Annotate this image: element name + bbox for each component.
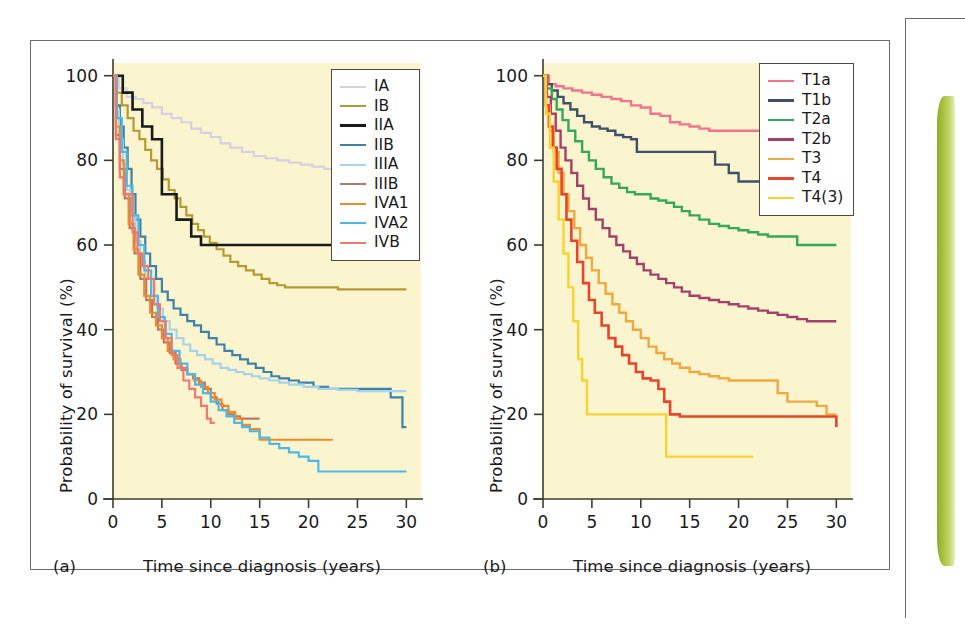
y-tick-label: 60: [506, 235, 528, 255]
legend-swatch-icon: [768, 138, 794, 141]
y-tick-label: 0: [517, 489, 528, 509]
x-tick-label: 30: [826, 512, 848, 532]
x-axis-label-a: Time since diagnosis (years): [143, 557, 381, 576]
legend-swatch-icon: [340, 144, 366, 146]
legend-swatch-icon: [340, 203, 366, 205]
x-tick-label: 5: [586, 512, 597, 532]
y-tick-label: 20: [506, 404, 528, 424]
legend-item-iva1: IVA1: [340, 194, 409, 214]
legend-label: IVB: [374, 235, 400, 251]
legend-item-t2b: T2b: [768, 130, 843, 150]
x-tick-label: 15: [679, 512, 701, 532]
legend-swatch-icon: [340, 222, 366, 224]
x-tick-label: 15: [249, 512, 271, 532]
panel-a: 020406080100051015202530 Probability of …: [31, 41, 461, 571]
legend-item-ivb: IVB: [340, 233, 409, 253]
legend-swatch-icon: [768, 177, 794, 180]
legend-label: IIA: [374, 118, 394, 134]
legend-label: IIIB: [374, 177, 398, 193]
y-tick-label: 80: [76, 150, 98, 170]
legend-swatch-icon: [768, 158, 794, 160]
legend-swatch-icon: [768, 99, 794, 102]
legend-label: IVA2: [374, 216, 409, 232]
panel-tag-b: (b): [483, 557, 506, 576]
x-tick-label: 0: [538, 512, 549, 532]
legend-label: T2b: [802, 132, 831, 148]
legend-item-iiib: IIIB: [340, 175, 409, 195]
y-tick-label: 0: [87, 489, 98, 509]
x-tick-label: 20: [728, 512, 750, 532]
legend-label: IIIA: [374, 157, 398, 173]
legend-swatch-icon: [340, 164, 366, 166]
legend-label: IB: [374, 99, 389, 115]
panel-b: 020406080100051015202530 Probability of …: [461, 41, 891, 571]
y-axis-label-a: Probability of survival (%): [57, 278, 76, 493]
y-tick-label: 40: [76, 320, 98, 340]
x-tick-label: 25: [347, 512, 369, 532]
x-tick-label: 10: [200, 512, 222, 532]
y-tick-label: 100: [66, 66, 98, 86]
legend-label: T4: [802, 171, 821, 187]
y-tick-label: 40: [506, 320, 528, 340]
legend-item-ib: IB: [340, 97, 409, 117]
legend-label: T2a: [802, 112, 831, 128]
y-axis-label-b: Probability of survival (%): [487, 278, 506, 493]
legend-label: T3: [802, 151, 821, 167]
x-tick-label: 10: [630, 512, 652, 532]
figure-border: 020406080100051015202530 Probability of …: [30, 40, 890, 570]
legend-item-t4: T4: [768, 169, 843, 189]
legend-item-iiia: IIIA: [340, 155, 409, 175]
page-edge-strip: [937, 96, 955, 566]
panel-tag-a: (a): [53, 557, 76, 576]
legend-b: T1aT1bT2aT2bT3T4T4(3): [759, 63, 854, 216]
legend-item-t3: T3: [768, 149, 843, 169]
x-tick-label: 0: [108, 512, 119, 532]
legend-swatch-icon: [768, 119, 794, 121]
legend-item-ia: IA: [340, 77, 409, 97]
legend-label: T4(3): [802, 190, 843, 206]
legend-swatch-icon: [340, 105, 366, 107]
x-tick-label: 30: [396, 512, 418, 532]
legend-label: T1b: [802, 93, 831, 109]
legend-label: IIB: [374, 138, 394, 154]
legend-item-iib: IIB: [340, 136, 409, 156]
legend-a: IAIBIIAIIBIIIAIIIBIVA1IVA2IVB: [331, 69, 420, 261]
page-outer-border: [905, 18, 965, 618]
legend-item-t1a: T1a: [768, 71, 843, 91]
legend-swatch-icon: [340, 86, 366, 88]
legend-item-iia: IIA: [340, 116, 409, 136]
legend-swatch-icon: [768, 80, 794, 82]
legend-swatch-icon: [340, 183, 366, 185]
y-tick-label: 80: [506, 150, 528, 170]
legend-item-iva2: IVA2: [340, 214, 409, 234]
legend-swatch-icon: [768, 197, 794, 199]
y-tick-label: 20: [76, 404, 98, 424]
legend-swatch-icon: [340, 124, 366, 127]
y-tick-label: 100: [496, 66, 528, 86]
legend-swatch-icon: [340, 242, 366, 244]
x-tick-label: 20: [298, 512, 320, 532]
legend-item-t2a: T2a: [768, 110, 843, 130]
y-tick-label: 60: [76, 235, 98, 255]
legend-item-t43: T4(3): [768, 188, 843, 208]
x-tick-label: 5: [156, 512, 167, 532]
x-axis-label-b: Time since diagnosis (years): [573, 557, 811, 576]
legend-label: T1a: [802, 73, 831, 89]
legend-label: IA: [374, 79, 389, 95]
legend-label: IVA1: [374, 196, 409, 212]
legend-item-t1b: T1b: [768, 91, 843, 111]
x-tick-label: 25: [777, 512, 799, 532]
